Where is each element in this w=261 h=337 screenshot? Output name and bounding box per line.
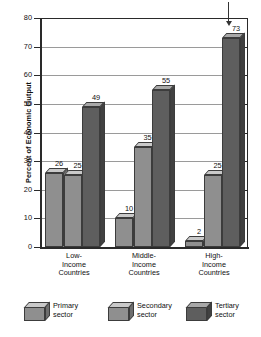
bar-front-face (115, 218, 133, 247)
bar-side-face (240, 33, 245, 247)
legend-swatch-cube-icon (24, 302, 49, 319)
y-tick-mark-right (241, 247, 248, 248)
y-tick-label: 40 (12, 129, 32, 137)
y-tick-mark (34, 190, 41, 191)
legend-swatch-cube-icon (186, 302, 211, 319)
gridline (42, 104, 248, 105)
bar (152, 85, 170, 247)
y-tick-mark (34, 133, 41, 134)
legend-label: Tertiarysector (215, 302, 239, 319)
bar-chart-figure: Percent of Economic Output 8070605040302… (0, 0, 261, 337)
bar-front-face (152, 90, 170, 247)
bar-front-face (185, 241, 203, 247)
bar-front-face (134, 147, 152, 247)
x-axis-line (40, 247, 249, 249)
bar (185, 236, 203, 247)
legend: PrimarysectorSecondarysectorTertiarysect… (0, 296, 261, 336)
y-tick-mark (34, 218, 41, 219)
legend-label: Primarysector (53, 302, 78, 319)
category-label: High-IncomeCountries (179, 252, 249, 278)
y-tick-label: 60 (12, 71, 32, 79)
y-tick-label: 80 (12, 14, 32, 22)
bar-value-label: 55 (153, 76, 179, 85)
y-tick-mark (34, 104, 41, 105)
bar (82, 102, 100, 247)
gridline (42, 75, 248, 76)
y-tick-mark-right (241, 18, 248, 19)
y-tick-mark (34, 247, 41, 248)
gridline (42, 47, 248, 48)
category-label-line: Countries (109, 269, 179, 278)
legend-label-line2: sector (215, 311, 239, 320)
bar-front-face (64, 175, 82, 247)
legend-label: Secondarysector (137, 302, 172, 319)
category-label: Low-IncomeCountries (39, 252, 109, 278)
bar (64, 170, 82, 247)
bar-side-face (170, 85, 175, 247)
y-tick-label: 0 (12, 243, 32, 251)
bar-front-face (204, 175, 222, 247)
category-label-line: Countries (179, 269, 249, 278)
bar (45, 168, 63, 247)
bar-front-face (222, 38, 240, 247)
bar-front-face (82, 107, 100, 247)
bar (204, 170, 222, 247)
y-tick-label: 30 (12, 157, 32, 165)
y-tick-label: 10 (12, 214, 32, 222)
y-tick-label: 20 (12, 186, 32, 194)
bar (115, 213, 133, 247)
y-tick-mark (34, 75, 41, 76)
category-label: Middle-IncomeCountries (109, 252, 179, 278)
bar-front-face (45, 173, 63, 247)
legend-cube-side (207, 301, 212, 321)
y-tick-mark (34, 161, 41, 162)
legend-cube-front (24, 307, 45, 321)
annotation-arrow-head-icon (226, 21, 232, 26)
legend-label-line2: sector (53, 311, 78, 320)
bar-value-label: 49 (83, 93, 109, 102)
y-tick-mark (34, 18, 41, 19)
legend-cube-side (129, 301, 134, 321)
bar (222, 33, 240, 247)
legend-cube-front (186, 307, 207, 321)
legend-cube-front (108, 307, 129, 321)
legend-cube-side (45, 301, 50, 321)
legend-swatch-cube-icon (108, 302, 133, 319)
y-tick-label: 50 (12, 100, 32, 108)
y-tick-label: 70 (12, 43, 32, 51)
legend-label-line2: sector (137, 311, 172, 320)
bar-side-face (100, 102, 105, 247)
bar (134, 142, 152, 247)
category-label-line: Countries (39, 269, 109, 278)
y-tick-mark (34, 47, 41, 48)
